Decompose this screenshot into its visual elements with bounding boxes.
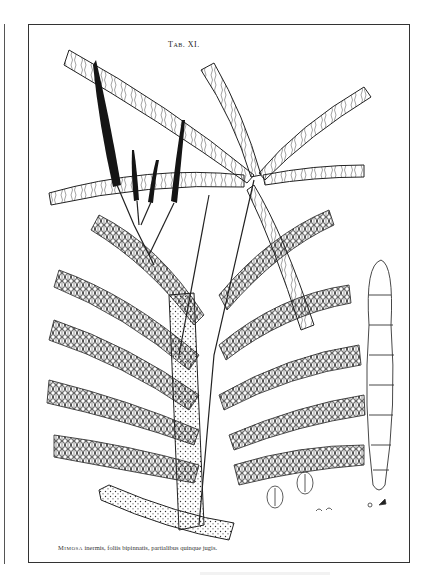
segmented-pod xyxy=(367,260,394,490)
caption-description: inermis, foliis bipinnatis, partialibus … xyxy=(83,544,217,551)
botanical-illustration xyxy=(29,25,409,562)
main-stem xyxy=(169,293,204,530)
caption-genus: Mimosa xyxy=(58,544,83,551)
plate-title: Tab. XI. xyxy=(168,40,200,49)
plate-caption: Mimosa inermis, foliis bipinnatis, parti… xyxy=(58,544,217,551)
pinnae-right xyxy=(219,210,365,485)
lower-dotted-branch xyxy=(99,485,234,540)
scan-artifact xyxy=(200,572,330,575)
adjacent-page-edge xyxy=(0,24,5,564)
seeds xyxy=(267,472,386,511)
